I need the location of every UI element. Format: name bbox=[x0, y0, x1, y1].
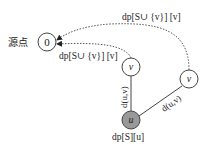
svg-text:v: v bbox=[129, 61, 134, 72]
node-source: 0 bbox=[38, 33, 56, 51]
dp-label-u-state: dp[S][u] bbox=[112, 132, 144, 142]
svg-text:0: 0 bbox=[44, 36, 50, 48]
svg-text:v: v bbox=[187, 73, 192, 84]
edge-weight-near: d(u,v) bbox=[119, 86, 129, 108]
node-u: u bbox=[122, 111, 140, 129]
svg-text:u: u bbox=[129, 114, 134, 125]
dp-label-near-path: dp[S∪ {v}] [v] bbox=[59, 51, 118, 61]
edge-weight-far: d(u,v) bbox=[159, 93, 183, 114]
node-v-near: v bbox=[122, 58, 140, 76]
dp-diagram: 0 v v u 源点 dp[S∪ {v}] [v] dp[S∪ {v}] [v]… bbox=[0, 0, 211, 148]
node-v-far: v bbox=[180, 70, 198, 88]
dp-label-top-path: dp[S∪ {v}] [v] bbox=[122, 12, 181, 22]
source-label: 源点 bbox=[8, 36, 28, 48]
